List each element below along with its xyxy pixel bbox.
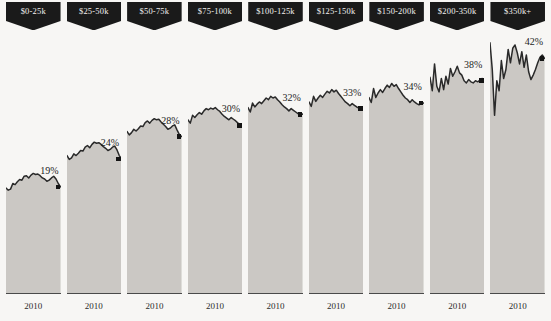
end-point-marker (237, 123, 242, 128)
panel-2: $25-50k24%2010 (67, 0, 122, 321)
panel-5: $100-125k32%2010 (248, 0, 303, 321)
panel-banner-label: $0-25k (6, 2, 61, 30)
end-value-label: 28% (161, 115, 179, 126)
panel-6: $125-150k33%2010 (309, 0, 364, 321)
x-axis-tick-label: 2010 (490, 301, 545, 311)
x-axis-tick-label: 2010 (430, 301, 485, 311)
panel-baseline (127, 293, 182, 294)
panel-baseline (248, 293, 303, 294)
x-axis-tick-label: 2010 (67, 301, 122, 311)
end-value-label: 34% (404, 81, 422, 92)
sparkline-plot (430, 36, 485, 293)
sparkline-plot (309, 36, 364, 293)
area-fill (490, 43, 545, 293)
x-axis-tick-label: 2010 (248, 301, 303, 311)
panel-baseline (67, 293, 122, 294)
panel-baseline (6, 293, 61, 294)
x-axis-tick-label: 2010 (369, 301, 424, 311)
end-point-marker (358, 106, 363, 111)
panel-banner-label: $125-150k (309, 2, 364, 30)
x-axis-tick-label: 2010 (188, 301, 243, 311)
panel-baseline (369, 293, 424, 294)
end-point-marker (298, 112, 303, 117)
panel-baseline (188, 293, 243, 294)
area-fill (430, 64, 485, 293)
panel-baseline (309, 293, 364, 294)
panel-8: $200-350k38%2010 (430, 0, 485, 321)
panel-banner-label: $25-50k (67, 2, 122, 30)
panel-banner-label: $75-100k (188, 2, 243, 30)
panel-9: $350k+42%2010 (490, 0, 545, 321)
end-point-marker (479, 78, 484, 83)
panel-baseline (430, 293, 485, 294)
x-axis-tick-label: 2010 (6, 301, 61, 311)
end-point-marker (116, 157, 121, 162)
panel-3: $50-75k28%2010 (127, 0, 182, 321)
end-point-marker (56, 185, 61, 190)
area-fill (369, 83, 424, 293)
panel-container: $0-25k19%2010$25-50k24%2010$50-75k28%201… (0, 0, 551, 321)
area-fill (309, 90, 364, 293)
end-value-label: 32% (282, 92, 300, 103)
area-fill (67, 142, 122, 293)
panel-4: $75-100k30%2010 (188, 0, 243, 321)
x-axis-tick-label: 2010 (309, 301, 364, 311)
end-value-label: 42% (525, 36, 543, 47)
panel-baseline (490, 293, 545, 294)
sparkline-plot (188, 36, 243, 293)
area-fill (188, 108, 243, 293)
end-value-label: 19% (40, 165, 58, 176)
end-point-marker (540, 56, 545, 61)
sparkline-plot (369, 36, 424, 293)
panel-banner-label: $50-75k (127, 2, 182, 30)
sparkline-plot (248, 36, 303, 293)
panel-banner-label: $350k+ (490, 2, 545, 30)
area-fill (6, 173, 61, 293)
end-value-label: 30% (222, 103, 240, 114)
panel-banner-label: $150-200k (369, 2, 424, 30)
x-axis-tick-label: 2010 (127, 301, 182, 311)
end-point-marker (419, 101, 424, 106)
end-value-label: 38% (464, 59, 482, 70)
sparkline-plot (490, 36, 545, 293)
panel-banner-label: $100-125k (248, 2, 303, 30)
area-fill (248, 96, 303, 293)
area-fill (127, 119, 182, 293)
panel-banner-label: $200-350k (430, 2, 485, 30)
end-value-label: 24% (101, 137, 119, 148)
sparkline-plot (127, 36, 182, 293)
end-point-marker (177, 134, 182, 139)
small-multiples-chart: $0-25k19%2010$25-50k24%2010$50-75k28%201… (0, 0, 551, 321)
panel-7: $150-200k34%2010 (369, 0, 424, 321)
panel-1: $0-25k19%2010 (6, 0, 61, 321)
end-value-label: 33% (343, 87, 361, 98)
sparkline-plot (67, 36, 122, 293)
